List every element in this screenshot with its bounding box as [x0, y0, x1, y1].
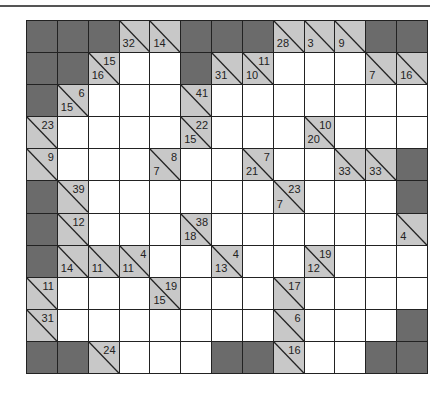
answer-cell[interactable] [335, 214, 365, 245]
answer-cell[interactable] [335, 342, 365, 373]
down-clue: 15 [61, 102, 73, 113]
answer-cell[interactable] [150, 246, 180, 277]
answer-cell[interactable] [397, 278, 427, 309]
answer-cell[interactable] [212, 310, 242, 341]
answer-cell[interactable] [243, 85, 273, 116]
answer-cell[interactable] [366, 278, 396, 309]
clue-cell: 413 [212, 246, 242, 277]
answer-cell[interactable] [243, 310, 273, 341]
answer-cell[interactable] [366, 310, 396, 341]
answer-cell[interactable] [212, 85, 242, 116]
answer-cell[interactable] [274, 214, 304, 245]
answer-cell[interactable] [274, 53, 304, 84]
answer-cell[interactable] [120, 149, 150, 180]
answer-cell[interactable] [243, 181, 273, 212]
answer-cell[interactable] [212, 278, 242, 309]
answer-cell[interactable] [120, 278, 150, 309]
answer-cell[interactable] [366, 117, 396, 148]
answer-cell[interactable] [335, 181, 365, 212]
answer-cell[interactable] [58, 149, 88, 180]
answer-cell[interactable] [212, 149, 242, 180]
answer-cell[interactable] [120, 214, 150, 245]
block-cell [243, 342, 273, 373]
answer-cell[interactable] [89, 214, 119, 245]
answer-cell[interactable] [58, 278, 88, 309]
answer-cell[interactable] [150, 342, 180, 373]
answer-cell[interactable] [305, 278, 335, 309]
answer-cell[interactable] [150, 117, 180, 148]
block-cell [27, 246, 57, 277]
answer-cell[interactable] [305, 53, 335, 84]
answer-cell[interactable] [89, 117, 119, 148]
answer-cell[interactable] [120, 310, 150, 341]
answer-cell[interactable] [305, 85, 335, 116]
answer-cell[interactable] [181, 342, 211, 373]
answer-cell[interactable] [366, 246, 396, 277]
answer-cell[interactable] [366, 85, 396, 116]
clue-cell: 24 [89, 342, 119, 373]
answer-cell[interactable] [335, 278, 365, 309]
answer-cell[interactable] [181, 310, 211, 341]
block-cell [397, 181, 427, 212]
answer-cell[interactable] [150, 214, 180, 245]
answer-cell[interactable] [150, 310, 180, 341]
answer-cell[interactable] [89, 85, 119, 116]
answer-cell[interactable] [181, 278, 211, 309]
answer-cell[interactable] [212, 214, 242, 245]
answer-cell[interactable] [212, 181, 242, 212]
answer-cell[interactable] [89, 149, 119, 180]
answer-cell[interactable] [274, 85, 304, 116]
answer-cell[interactable] [58, 117, 88, 148]
down-clue: 9 [338, 38, 344, 49]
answer-cell[interactable] [58, 310, 88, 341]
answer-cell[interactable] [335, 85, 365, 116]
answer-cell[interactable] [366, 181, 396, 212]
answer-cell[interactable] [89, 278, 119, 309]
answer-cell[interactable] [305, 342, 335, 373]
answer-cell[interactable] [89, 310, 119, 341]
answer-cell[interactable] [181, 181, 211, 212]
answer-cell[interactable] [243, 117, 273, 148]
across-clue: 4 [233, 249, 239, 260]
block-cell [397, 149, 427, 180]
answer-cell[interactable] [305, 149, 335, 180]
answer-cell[interactable] [150, 181, 180, 212]
answer-cell[interactable] [120, 342, 150, 373]
block-cell [27, 181, 57, 212]
answer-cell[interactable] [274, 117, 304, 148]
answer-cell[interactable] [335, 53, 365, 84]
down-clue: 4 [400, 231, 406, 242]
answer-cell[interactable] [181, 149, 211, 180]
clue-cell: 17 [274, 278, 304, 309]
answer-cell[interactable] [212, 117, 242, 148]
answer-cell[interactable] [89, 181, 119, 212]
answer-cell[interactable] [243, 246, 273, 277]
answer-cell[interactable] [150, 53, 180, 84]
answer-cell[interactable] [397, 85, 427, 116]
answer-cell[interactable] [305, 214, 335, 245]
block-cell [181, 21, 211, 52]
answer-cell[interactable] [243, 278, 273, 309]
answer-cell[interactable] [150, 85, 180, 116]
answer-cell[interactable] [274, 149, 304, 180]
answer-cell[interactable] [120, 181, 150, 212]
block-cell [27, 85, 57, 116]
answer-cell[interactable] [120, 117, 150, 148]
down-clue: 15 [184, 134, 196, 145]
answer-cell[interactable] [335, 246, 365, 277]
answer-cell[interactable] [397, 117, 427, 148]
answer-cell[interactable] [274, 246, 304, 277]
answer-cell[interactable] [397, 246, 427, 277]
answer-cell[interactable] [243, 214, 273, 245]
across-clue: 39 [72, 184, 84, 195]
answer-cell[interactable] [366, 214, 396, 245]
answer-cell[interactable] [335, 310, 365, 341]
answer-cell[interactable] [305, 181, 335, 212]
clue-cell: 33 [366, 149, 396, 180]
answer-cell[interactable] [181, 246, 211, 277]
answer-cell[interactable] [335, 117, 365, 148]
down-clue: 7 [277, 199, 283, 210]
answer-cell[interactable] [305, 310, 335, 341]
answer-cell[interactable] [120, 53, 150, 84]
answer-cell[interactable] [120, 85, 150, 116]
